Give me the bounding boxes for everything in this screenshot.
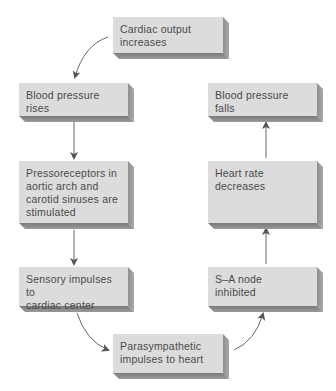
arrow-parasympathetic-to-sa-node [234,314,263,350]
node-bp-falls: Blood pressure falls [208,83,317,116]
node-label: Sensory impulses to cardiac center [26,273,121,312]
node-parasympathetic: Parasympathetic impulses to heart [113,334,223,373]
node-bp-rises: Blood pressure rises [19,83,128,116]
node-pressoreceptors: Pressoreceptors in aortic arch and carot… [19,161,128,223]
node-label: Parasympathetic impulses to heart [120,340,216,366]
node-label: Blood pressure falls [215,89,310,115]
node-label: Cardiac output increases [120,23,216,49]
node-label: S–A node inhibited [215,273,310,299]
node-cardiac-output: Cardiac output increases [113,17,223,53]
arrow-sensory-to-parasympathetic [77,313,108,350]
node-sa-node: S–A node inhibited [208,267,317,306]
node-label: Heart rate decreases [215,167,310,193]
node-label: Pressoreceptors in aortic arch and carot… [26,167,121,219]
node-heart-rate: Heart rate decreases [208,161,317,223]
node-sensory: Sensory impulses to cardiac center [19,267,128,306]
node-label: Blood pressure rises [26,89,121,115]
arrow-cardiac-to-bp-rises [75,37,108,77]
